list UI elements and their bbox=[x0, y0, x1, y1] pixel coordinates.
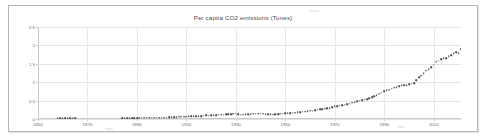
data-point bbox=[364, 99, 366, 101]
data-point bbox=[411, 83, 413, 85]
data-point bbox=[166, 117, 168, 119]
data-point bbox=[124, 117, 126, 119]
data-point bbox=[458, 52, 460, 54]
y-tick-label: 1 bbox=[33, 80, 35, 85]
data-point bbox=[322, 108, 324, 110]
data-point bbox=[386, 89, 388, 91]
data-point bbox=[460, 48, 461, 50]
data-point bbox=[297, 112, 299, 114]
data-point bbox=[329, 107, 331, 109]
x-tick-label: 1930 bbox=[231, 122, 241, 127]
data-point bbox=[181, 116, 183, 118]
data-point bbox=[126, 117, 128, 119]
data-point bbox=[287, 112, 289, 114]
data-point bbox=[139, 117, 141, 119]
data-point bbox=[186, 116, 188, 118]
data-point bbox=[163, 117, 165, 119]
data-point bbox=[438, 60, 440, 62]
x-tick-mark bbox=[38, 119, 39, 121]
data-point bbox=[156, 117, 158, 119]
data-point bbox=[406, 84, 408, 86]
data-point bbox=[218, 114, 220, 116]
data-point bbox=[267, 113, 269, 115]
y-tick-label: 0 bbox=[33, 117, 35, 122]
y-tick-label: 1.5 bbox=[29, 61, 35, 66]
data-point bbox=[121, 117, 123, 119]
x-tick-mark bbox=[285, 119, 286, 121]
data-point bbox=[376, 94, 378, 96]
data-point bbox=[391, 88, 393, 90]
data-point bbox=[349, 103, 351, 105]
gridline-horizontal bbox=[38, 119, 461, 120]
data-point bbox=[455, 51, 457, 53]
data-point bbox=[282, 113, 284, 115]
x-tick-mark bbox=[186, 119, 187, 121]
data-point bbox=[233, 113, 235, 115]
data-point bbox=[243, 114, 245, 116]
data-point bbox=[144, 117, 146, 119]
data-point bbox=[215, 114, 217, 116]
data-point bbox=[250, 113, 252, 115]
data-point bbox=[433, 64, 435, 66]
data-point bbox=[304, 111, 306, 113]
paper-speckle bbox=[397, 126, 404, 128]
data-point bbox=[129, 117, 131, 119]
data-point bbox=[275, 113, 277, 115]
data-point bbox=[225, 113, 227, 115]
data-point bbox=[413, 82, 415, 84]
data-point bbox=[176, 116, 178, 118]
data-point bbox=[265, 113, 267, 115]
data-point bbox=[183, 116, 185, 118]
data-point bbox=[309, 110, 311, 112]
data-point bbox=[191, 116, 193, 118]
data-point bbox=[149, 117, 151, 119]
data-point bbox=[285, 113, 287, 115]
y-tick-label: 0.5 bbox=[29, 98, 35, 103]
data-point bbox=[277, 113, 279, 115]
data-point bbox=[319, 109, 321, 111]
data-point bbox=[416, 79, 418, 81]
data-point bbox=[131, 117, 133, 119]
data-point bbox=[426, 70, 428, 72]
data-point bbox=[379, 93, 381, 95]
data-point bbox=[351, 102, 353, 104]
data-point bbox=[238, 113, 240, 115]
data-point bbox=[408, 84, 410, 86]
data-point bbox=[178, 116, 180, 118]
data-point bbox=[62, 117, 64, 119]
plot-area: 2.521.510.50 185018701890191019301950197… bbox=[38, 27, 461, 119]
data-point bbox=[203, 115, 205, 117]
data-point bbox=[371, 96, 373, 98]
y-tick-label: 2.5 bbox=[29, 25, 35, 30]
x-tick-label: 1890 bbox=[132, 122, 142, 127]
data-point bbox=[374, 95, 376, 97]
data-point bbox=[134, 117, 136, 119]
data-point bbox=[210, 115, 212, 117]
x-tick-label: 1990 bbox=[379, 122, 389, 127]
data-point bbox=[198, 115, 200, 117]
data-point bbox=[220, 114, 222, 116]
data-point bbox=[193, 116, 195, 118]
data-point bbox=[388, 89, 390, 91]
data-point bbox=[59, 117, 61, 119]
x-tick-label: 1950 bbox=[280, 122, 290, 127]
data-point bbox=[292, 112, 294, 114]
data-point bbox=[69, 117, 71, 119]
data-point bbox=[428, 68, 430, 70]
x-tick-label: 1850 bbox=[33, 122, 43, 127]
data-point bbox=[205, 115, 207, 117]
data-series bbox=[38, 27, 461, 119]
data-point bbox=[317, 109, 319, 111]
data-point bbox=[173, 116, 175, 118]
paper-speckle bbox=[105, 128, 113, 130]
x-tick-label: 1870 bbox=[83, 122, 93, 127]
data-point bbox=[314, 109, 316, 111]
data-point bbox=[443, 57, 445, 59]
chart-card: Per capita CO2 emissions (Tones) 2.521.5… bbox=[8, 5, 478, 132]
data-point bbox=[72, 117, 74, 119]
data-point bbox=[450, 54, 452, 56]
data-point bbox=[440, 59, 442, 61]
data-point bbox=[435, 61, 437, 63]
data-point bbox=[168, 116, 170, 118]
data-point bbox=[307, 110, 309, 112]
